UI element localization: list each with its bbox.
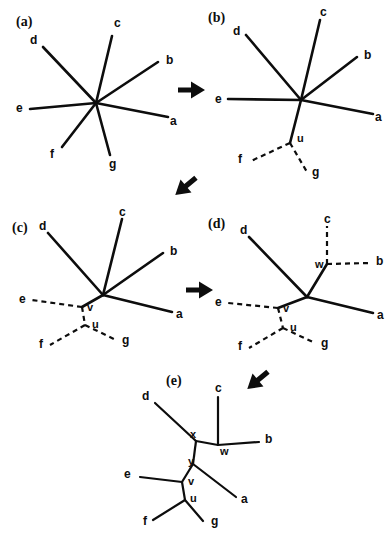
taxon-label-a-e: e <box>16 101 23 115</box>
taxon-label-c-f: f <box>39 337 44 351</box>
arrow-icon <box>186 282 213 299</box>
panel-a: (a)dcbaefg <box>16 14 177 171</box>
edge-solid-a-f <box>62 103 96 147</box>
panel-label-e: (e) <box>166 373 182 389</box>
arrow-b-to-c <box>170 171 202 201</box>
edge-dashed-d-e <box>228 303 278 308</box>
taxon-label-b-f: f <box>238 152 243 166</box>
taxon-label-d-b: b <box>376 254 383 268</box>
taxon-label-e-b: b <box>265 432 272 446</box>
taxon-label-a-f: f <box>50 147 55 161</box>
edge-dashed-c-g <box>85 325 116 340</box>
node-label-b-u: u <box>297 132 304 144</box>
taxon-label-e-a: a <box>241 492 248 506</box>
edge-dashed-c-e <box>32 300 82 307</box>
edge-dashed-b-g <box>290 143 307 172</box>
node-label-d-v: v <box>283 302 290 314</box>
arrow-a-to-b <box>178 82 205 99</box>
arrow-icon <box>178 82 205 99</box>
taxon-label-d-d: d <box>240 223 247 237</box>
figure-container: (a)dcbaefg(b)dcbaefgu(c)dcbaefgvu(d)dcba… <box>0 0 390 539</box>
panel-d: (d)dcbaefgwvu <box>208 212 384 353</box>
arrows-layer <box>170 82 274 396</box>
edge-solid-a-e <box>30 103 96 109</box>
taxon-label-e-e: e <box>124 467 131 481</box>
edge-solid-c-d <box>48 233 103 295</box>
edge-dashed-c-u <box>82 307 85 325</box>
taxon-label-a-d: d <box>30 33 37 47</box>
taxon-label-e-g: g <box>211 514 218 528</box>
arrow-icon <box>242 365 274 395</box>
edge-solid-a-a <box>96 103 168 117</box>
taxon-label-c-b: b <box>170 244 177 258</box>
edge-solid-e-u <box>182 482 185 500</box>
taxon-label-b-c: c <box>320 5 327 19</box>
panel-label-a: (a) <box>16 14 33 30</box>
arrow-d-to-e <box>242 365 274 395</box>
taxon-label-c-a: a <box>176 307 183 321</box>
taxon-label-a-c: c <box>114 16 121 30</box>
edge-solid-a-d <box>43 47 96 103</box>
edge-solid-b-e <box>228 99 301 100</box>
edge-solid-e-w <box>196 441 218 445</box>
edge-solid-e-f <box>153 500 185 520</box>
node-label-c-u: u <box>92 318 99 330</box>
edge-solid-b-d <box>246 35 301 100</box>
taxon-label-e-f: f <box>143 514 148 528</box>
node-label-c-v: v <box>87 301 94 313</box>
panel-label-b: (b) <box>208 10 225 26</box>
edge-solid-a-g <box>96 103 110 155</box>
taxon-label-e-c: c <box>215 381 222 395</box>
node-label-e-v: v <box>188 475 195 487</box>
edge-solid-c-a <box>103 295 172 312</box>
taxon-label-d-e: e <box>215 295 222 309</box>
taxon-label-e-d: d <box>142 389 149 403</box>
edge-dashed-c-f <box>50 325 85 345</box>
node-label-e-x: x <box>190 428 197 440</box>
arrow-c-to-d <box>186 282 213 299</box>
panels-layer: (a)dcbaefg(b)dcbaefgu(c)dcbaefgvu(d)dcba… <box>12 5 384 528</box>
panel-b: (b)dcbaefgu <box>208 5 382 179</box>
taxon-label-b-a: a <box>375 110 382 124</box>
taxon-label-d-a: a <box>377 308 384 322</box>
panel-e: (e)dcbaefgxwyvu <box>124 373 272 528</box>
edge-solid-d-a <box>307 297 373 313</box>
taxon-label-d-g: g <box>321 336 328 350</box>
taxon-label-c-c: c <box>119 205 126 219</box>
tree-construction-figure: (a)dcbaefg(b)dcbaefgu(c)dcbaefgvu(d)dcba… <box>0 0 390 539</box>
edge-solid-e-e <box>140 477 182 482</box>
taxon-label-d-c: c <box>324 212 331 226</box>
node-label-e-w: w <box>219 445 229 457</box>
node-label-d-u: u <box>290 321 297 333</box>
taxon-label-b-d: d <box>233 24 240 38</box>
arrow-icon <box>170 171 202 201</box>
panel-label-c: (c) <box>12 220 28 236</box>
edge-dashed-d-b <box>327 263 370 264</box>
taxon-label-d-f: f <box>238 339 243 353</box>
panel-c: (c)dcbaefgvu <box>12 205 183 351</box>
taxon-label-c-e: e <box>19 292 26 306</box>
taxon-label-a-a: a <box>170 114 177 128</box>
taxon-label-b-b: b <box>364 48 371 62</box>
taxon-label-c-g: g <box>122 333 129 347</box>
taxon-label-b-g: g <box>312 165 319 179</box>
node-label-e-u: u <box>190 492 197 504</box>
node-label-d-w: w <box>314 258 324 270</box>
edge-solid-d-d <box>249 237 307 297</box>
taxon-label-a-g: g <box>109 157 116 171</box>
taxon-label-c-d: d <box>39 219 46 233</box>
panel-label-d: (d) <box>208 216 225 232</box>
edge-dashed-b-f <box>251 143 290 161</box>
edge-solid-b-a <box>301 100 373 114</box>
edge-dashed-d-f <box>249 328 283 348</box>
edge-solid-e-a <box>193 464 236 497</box>
node-label-e-y: y <box>188 455 195 467</box>
edge-dashed-d-g <box>283 328 315 343</box>
taxon-label-a-b: b <box>166 53 173 67</box>
taxon-label-b-e: e <box>215 92 222 106</box>
